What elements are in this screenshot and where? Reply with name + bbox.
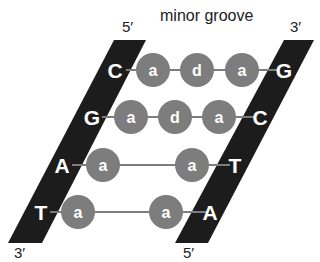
residue-label: a: [215, 109, 224, 126]
minor-groove-label: minor groove: [160, 7, 253, 24]
residue-label: a: [238, 62, 247, 79]
right-base: A: [202, 201, 217, 224]
dna-minor-groove-diagram: minor groove 5′ 3′ 3′ 5′ C a d a G G a d…: [0, 0, 320, 262]
right-base: G: [276, 59, 292, 82]
residue-label: a: [149, 62, 158, 79]
right-strand-bottom-label: 5′: [183, 244, 194, 261]
residue-label: d: [192, 62, 202, 79]
residue-label: a: [162, 204, 171, 221]
right-strand-top-label: 3′: [290, 18, 301, 35]
left-base: T: [35, 201, 48, 224]
left-base: C: [107, 59, 122, 82]
left-strand-bottom-label: 3′: [14, 244, 25, 261]
residue-label: d: [170, 109, 180, 126]
residue-label: a: [74, 204, 83, 221]
right-base: T: [229, 154, 242, 177]
left-strand-top-label: 5′: [122, 18, 133, 35]
residue-label: a: [99, 157, 108, 174]
left-base: G: [84, 106, 100, 129]
left-base: A: [54, 154, 69, 177]
residue-label: a: [188, 157, 197, 174]
right-base: C: [252, 106, 267, 129]
residue-label: a: [127, 109, 136, 126]
